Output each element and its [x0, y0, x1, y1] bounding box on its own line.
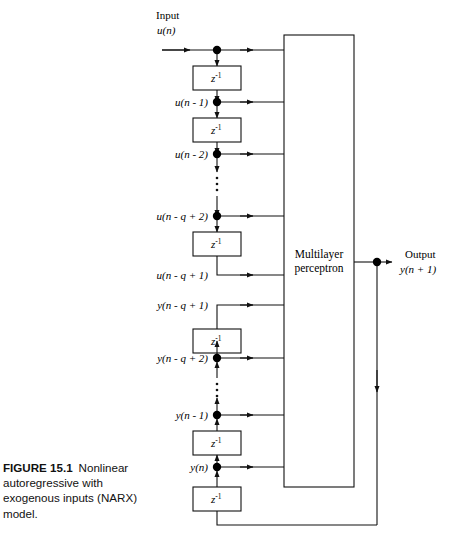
tap-node-y2 [213, 411, 221, 419]
output-label-line2: y(n + 1) [399, 263, 436, 276]
tap-label-y1: y(n - q + 2) [156, 352, 208, 365]
input-label-line1: Input [156, 9, 179, 21]
feedback-bottom-rail [217, 511, 377, 525]
figure-number: FIGURE 15.1 [3, 461, 73, 474]
multilayer-perceptron-block [284, 35, 354, 487]
input-label-line2: u(n) [157, 24, 176, 37]
tap-label-y0: y(n - q + 1) [156, 299, 208, 312]
ellipsis-icon-lower [216, 383, 219, 398]
tap-label-y2: y(n - 1) [175, 409, 209, 422]
tap-node-y3 [213, 463, 221, 471]
mlp-block-text: Multilayer perceptron [294, 248, 343, 275]
tap-node-y1 [213, 354, 221, 362]
u-last-elbow [217, 256, 284, 275]
tap-node-u2 [213, 150, 221, 158]
ellipsis-icon-upper [216, 177, 219, 192]
tap-label-u3: u(n - q + 2) [157, 210, 209, 223]
tap-labels: u(n - 1) u(n - 2) u(n - q + 2) u(n - q +… [156, 96, 208, 474]
delay-exponent: -1 [215, 71, 221, 80]
tap-node-u3 [213, 212, 221, 220]
output-label-line1: Output [405, 248, 436, 260]
tap-node-u0 [213, 46, 221, 54]
tap-label-u1: u(n - 1) [175, 96, 208, 109]
figure-caption: FIGURE 15.1Nonlinear autoregressive with… [3, 460, 158, 521]
mlp-line2: perceptron [294, 262, 343, 275]
output-node [373, 258, 381, 266]
narx-block-diagram: z-1 z-1 z-1 z-1 z-1 z-1 u(n - 1) u(n - 2… [0, 0, 464, 537]
tap-label-u2: u(n - 2) [175, 148, 208, 161]
y-first-elbow [217, 305, 284, 329]
mlp-line1: Multilayer [295, 248, 344, 261]
figure-root: z-1 z-1 z-1 z-1 z-1 z-1 u(n - 1) u(n - 2… [0, 0, 464, 537]
tap-label-u4: u(n - q + 1) [157, 269, 209, 282]
tap-label-y3: y(n) [189, 461, 208, 474]
tap-node-u1 [213, 98, 221, 106]
